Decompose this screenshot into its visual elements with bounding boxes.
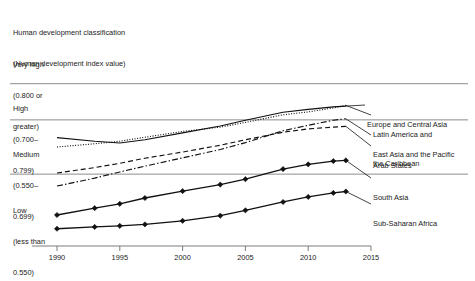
data-point-marker bbox=[142, 195, 147, 200]
data-point-marker bbox=[117, 201, 122, 206]
leader-south-asia bbox=[346, 160, 371, 178]
data-point-marker bbox=[54, 212, 59, 217]
data-point-marker bbox=[142, 222, 147, 227]
x-axis bbox=[32, 246, 371, 251]
data-point-marker bbox=[331, 159, 336, 164]
data-point-marker bbox=[306, 162, 311, 167]
series-label-sub-saharan-africa: Sub-Saharan Africa bbox=[373, 200, 437, 248]
data-point-marker bbox=[331, 190, 336, 195]
data-point-marker bbox=[218, 182, 223, 187]
data-point-marker bbox=[343, 158, 348, 163]
leader-sub-saharan-africa bbox=[346, 191, 371, 204]
x-tick-label-2010: 2010 bbox=[300, 253, 316, 262]
data-point-marker bbox=[180, 218, 185, 223]
data-point-marker bbox=[180, 189, 185, 194]
data-point-marker bbox=[92, 206, 97, 211]
series-label-arab-text: Arab States bbox=[373, 161, 412, 171]
x-axis-tick-labels: 199019952000200520102015 bbox=[49, 253, 379, 262]
classification-high-name: High bbox=[13, 104, 38, 114]
data-point-marker bbox=[92, 224, 97, 229]
classification-low-range1: (less than bbox=[13, 237, 45, 247]
data-point-marker bbox=[280, 199, 285, 204]
x-tick-label-1995: 1995 bbox=[112, 253, 128, 262]
x-tick-label-2015: 2015 bbox=[363, 253, 379, 262]
data-point-marker bbox=[243, 177, 248, 182]
series-label-ssa-text: Sub-Saharan Africa bbox=[373, 219, 437, 229]
x-tick-label-2005: 2005 bbox=[237, 253, 253, 262]
data-point-marker bbox=[343, 189, 348, 194]
data-point-marker bbox=[280, 166, 285, 171]
series-line-europe-and-central-asia bbox=[57, 106, 346, 143]
data-point-marker bbox=[243, 208, 248, 213]
classification-low-name: Low bbox=[13, 206, 45, 216]
data-point-marker bbox=[218, 213, 223, 218]
series-line-south-asia bbox=[57, 160, 346, 215]
series-line-sub-saharan-africa bbox=[57, 191, 346, 228]
x-tick-label-2000: 2000 bbox=[174, 253, 190, 262]
classification-medium-name: Medium bbox=[13, 150, 39, 160]
x-tick-label-1990: 1990 bbox=[49, 253, 65, 262]
leader-europe-and-central-asia bbox=[346, 105, 365, 106]
classification-very-high-name: Very high bbox=[13, 60, 44, 70]
data-point-marker bbox=[306, 194, 311, 199]
chart-title-line1: Human development classification bbox=[13, 28, 126, 38]
classification-low-range2: 0.550) bbox=[13, 268, 45, 278]
data-series-group bbox=[54, 105, 348, 231]
data-point-marker bbox=[54, 226, 59, 231]
classification-low: Low (less than 0.550) bbox=[13, 186, 45, 281]
data-point-marker bbox=[117, 223, 122, 228]
